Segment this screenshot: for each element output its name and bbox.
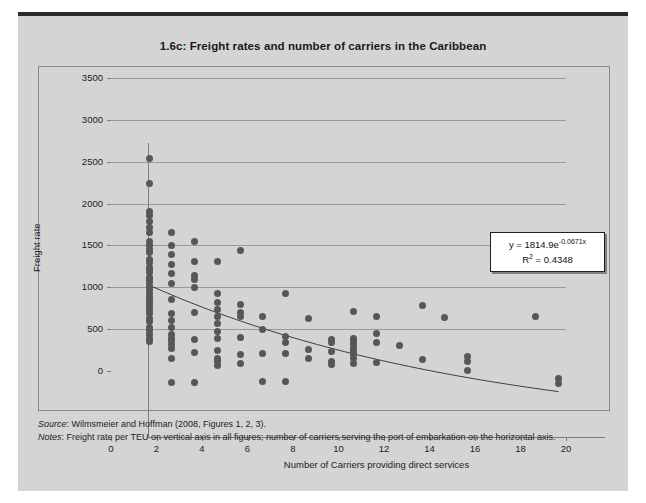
- scatter-point: [191, 309, 198, 316]
- y-tick-label: 500: [63, 323, 103, 334]
- scatter-point: [168, 310, 175, 317]
- x-axis-title: Number of Carriers providing direct serv…: [149, 459, 604, 470]
- scatter-point: [146, 180, 153, 187]
- y-tick-mark: [107, 120, 111, 121]
- scatter-point: [328, 339, 335, 346]
- scatter-point: [146, 155, 153, 162]
- scatter-point: [373, 359, 380, 366]
- y-tick-label: 3500: [63, 72, 103, 83]
- page-margin-right: [628, 0, 646, 503]
- gridline: [111, 78, 566, 79]
- scatter-point: [373, 313, 380, 320]
- scatter-point: [328, 361, 335, 368]
- scatter-point: [282, 339, 289, 346]
- r-squared-line: R2 = 0.4348: [522, 252, 573, 267]
- x-tick-label: 0: [96, 443, 126, 454]
- y-tick-mark: [107, 329, 111, 330]
- equation-text: y = 1814.9e: [509, 239, 559, 250]
- scatter-point: [191, 284, 198, 291]
- scatter-point: [168, 345, 175, 352]
- y-tick-mark: [107, 204, 111, 205]
- figure-container: 1.6c: Freight rates and number of carrie…: [0, 0, 646, 503]
- y-tick-label: 2500: [63, 156, 103, 167]
- scatter-point: [396, 342, 403, 349]
- scatter-point: [214, 347, 221, 354]
- gridline: [111, 120, 566, 121]
- scatter-point: [328, 348, 335, 355]
- notes-line: Notes: Freight rate per TEU on vertical …: [38, 431, 613, 444]
- chart-frame: Freight rate 050010001500200025003000350…: [38, 66, 610, 411]
- source-line: Source: Wilmsmeier and Hoffman (2008, Fi…: [38, 418, 613, 431]
- source-label: Source: [38, 419, 67, 429]
- y-tick-mark: [107, 371, 111, 372]
- scatter-point: [237, 351, 244, 358]
- scatter-point: [237, 247, 244, 254]
- scatter-point: [237, 313, 244, 320]
- notes-label: Notes: [38, 432, 62, 442]
- page-margin-bottom: [0, 491, 646, 503]
- scatter-point: [214, 328, 221, 335]
- x-tick-label: 8: [278, 443, 308, 454]
- figure-title: 1.6c: Freight rates and number of carrie…: [18, 40, 628, 52]
- x-tick-label: 12: [369, 443, 399, 454]
- equation-exponent: -0.0671x: [559, 238, 586, 245]
- y-tick-mark: [107, 162, 111, 163]
- x-tick-label: 18: [506, 443, 536, 454]
- equation-annotation-box: y = 1814.9e-0.0671x R2 = 0.4348: [490, 232, 605, 272]
- y-tick-mark: [107, 78, 111, 79]
- x-tick-label: 16: [460, 443, 490, 454]
- y-tick-label: 3000: [63, 114, 103, 125]
- scatter-point: [237, 334, 244, 341]
- scatter-point: [214, 362, 221, 369]
- scatter-point: [168, 242, 175, 249]
- scatter-point: [214, 290, 221, 297]
- plot-area: [149, 144, 604, 437]
- scatter-point: [214, 258, 221, 265]
- figure-footer: Source: Wilmsmeier and Hoffman (2008, Fi…: [38, 418, 613, 444]
- source-text: : Wilmsmeier and Hoffman (2008, Figures …: [67, 419, 266, 429]
- scatter-point: [419, 302, 426, 309]
- scatter-point: [214, 335, 221, 342]
- scatter-point: [214, 313, 221, 320]
- scatter-point: [237, 301, 244, 308]
- y-tick-label: 1500: [63, 239, 103, 250]
- x-tick-label: 6: [233, 443, 263, 454]
- y-tick-mark: [107, 245, 111, 246]
- y-axis-title: Freight rate: [31, 223, 42, 272]
- scatter-point: [191, 336, 198, 343]
- equation-line: y = 1814.9e-0.0671x: [509, 237, 586, 252]
- r-squared-value: = 0.4348: [533, 254, 573, 265]
- scatter-point: [259, 326, 266, 333]
- scatter-point: [305, 346, 312, 353]
- y-tick-label: 2000: [63, 198, 103, 209]
- scatter-point: [214, 299, 221, 306]
- x-tick-label: 4: [187, 443, 217, 454]
- r-squared-symbol: R: [522, 254, 529, 265]
- scatter-point: [282, 290, 289, 297]
- scatter-point: [191, 349, 198, 356]
- scatter-point: [555, 380, 562, 387]
- y-tick-label: 1000: [63, 281, 103, 292]
- scatter-point: [373, 330, 380, 337]
- scatter-point: [282, 350, 289, 357]
- page-margin-left: [0, 0, 18, 503]
- scatter-point: [237, 360, 244, 367]
- x-tick-label: 10: [324, 443, 354, 454]
- x-tick-label: 20: [551, 443, 581, 454]
- scatter-point: [373, 339, 380, 346]
- page-margin-top: [0, 0, 646, 12]
- scatter-point: [146, 338, 153, 345]
- x-tick-label: 2: [142, 443, 172, 454]
- scatter-point: [146, 229, 153, 236]
- scatter-point: [191, 258, 198, 265]
- scatter-point: [305, 355, 312, 362]
- scatter-point: [441, 314, 448, 321]
- scatter-point: [259, 350, 266, 357]
- y-tick-label: 0: [63, 365, 103, 376]
- notes-text: : Freight rate per TEU on vertical axis …: [62, 432, 556, 442]
- y-tick-mark: [107, 287, 111, 288]
- x-tick-label: 14: [415, 443, 445, 454]
- scatter-point: [168, 355, 175, 362]
